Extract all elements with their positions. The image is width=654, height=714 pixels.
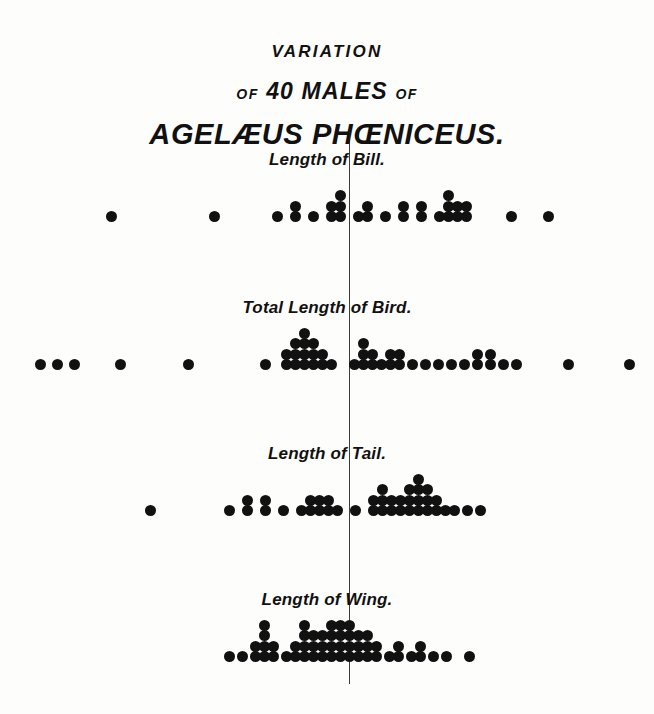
data-dot [350,505,361,516]
data-dot [428,651,439,662]
data-dot [459,359,470,370]
data-dot [475,505,486,516]
series-label: Length of Wing. [0,590,654,610]
data-dot [506,211,517,222]
data-dot [335,211,346,222]
data-dot [299,328,310,339]
data-dot [344,620,355,631]
data-dot [431,495,442,506]
data-dot [464,651,475,662]
data-dot [260,495,271,506]
data-dot [433,359,444,370]
data-dot [394,359,405,370]
data-dot [259,630,270,641]
data-dot [377,484,388,495]
data-dot [415,641,426,652]
data-dot [498,359,509,370]
data-dot [358,338,369,349]
data-dot [335,190,346,201]
data-dot [461,201,472,212]
data-dot [393,641,404,652]
data-dot [416,211,427,222]
data-dot [371,651,382,662]
data-dot [115,359,126,370]
data-dot [335,201,346,212]
data-dot [268,641,279,652]
data-dot [380,211,391,222]
data-dot [290,201,301,212]
data-dot [624,359,635,370]
variation-plate: VARIATION OF 40 MALES OF AGELÆUS PHŒNICE… [0,0,654,714]
series-label: Length of Tail. [0,444,654,464]
data-dot [272,211,283,222]
data-dot [415,651,426,662]
data-dot [35,359,46,370]
data-dot [420,359,431,370]
data-dot [398,201,409,212]
data-dot [299,620,310,631]
data-dot [183,359,194,370]
title-of-right: OF [395,86,417,102]
data-dot [407,359,418,370]
data-dot [106,211,117,222]
data-dot [362,211,373,222]
plate-title-line-2: OF 40 MALES OF [0,78,654,105]
data-dot [461,211,472,222]
plate-title-line-1: VARIATION [0,42,654,62]
data-dot [563,359,574,370]
data-dot [308,338,319,349]
title-specimen-count: 40 MALES [266,78,388,104]
data-dot [472,359,483,370]
data-dot [259,620,270,631]
data-dot [52,359,63,370]
data-dot [260,505,271,516]
data-dot [290,211,301,222]
data-dot [485,349,496,360]
series-label: Total Length of Bird. [0,298,654,318]
data-dot [242,505,253,516]
series-label: Length of Bill. [0,150,654,170]
title-of-left: OF [236,86,258,102]
data-dot [224,505,235,516]
data-dot [367,349,378,360]
data-dot [446,359,457,370]
data-dot [317,349,328,360]
data-dot [69,359,80,370]
data-dot [422,484,433,495]
plate-title-species: AGELÆUS PHŒNICEUS. [0,118,654,151]
data-dot [260,359,271,370]
data-dot [209,211,220,222]
data-dot [323,495,334,506]
data-dot [416,201,427,212]
data-dot [278,505,289,516]
data-dot [332,505,343,516]
data-dot [485,359,496,370]
data-dot [308,211,319,222]
data-dot [394,349,405,360]
data-dot [472,349,483,360]
data-dot [511,359,522,370]
data-dot [441,651,452,662]
data-dot [398,211,409,222]
data-dot [413,474,424,485]
data-dot [393,651,404,662]
data-dot [237,651,248,662]
data-dot [543,211,554,222]
data-dot [145,505,156,516]
data-dot [462,505,473,516]
data-dot [371,641,382,652]
data-dot [326,359,337,370]
data-dot [449,505,460,516]
data-dot [362,201,373,212]
data-dot [362,630,373,641]
data-dot [443,190,454,201]
data-dot [242,495,253,506]
data-dot [268,651,279,662]
data-dot [224,651,235,662]
